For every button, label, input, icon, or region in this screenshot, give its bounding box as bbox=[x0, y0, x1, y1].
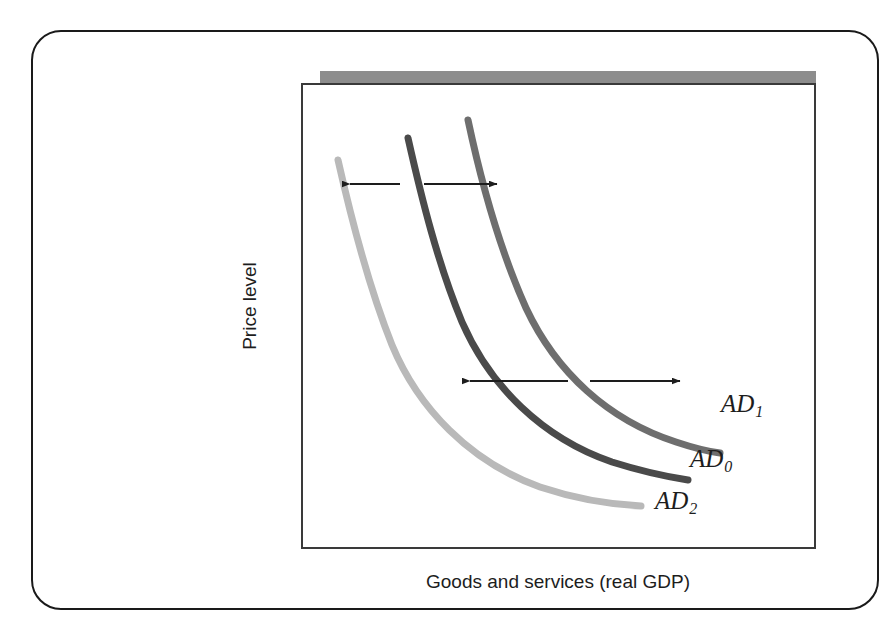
aggregate-demand-chart bbox=[0, 0, 881, 641]
curve-label-ad1: AD1 bbox=[721, 390, 762, 418]
curve-label-ad2-subscript: 2 bbox=[689, 500, 697, 517]
y-axis-title: Price level bbox=[239, 262, 261, 350]
curve-label-ad0-subscript: 0 bbox=[724, 458, 732, 475]
curve-label-ad2-text: AD bbox=[655, 487, 688, 514]
curve-label-ad2: AD2 bbox=[655, 487, 696, 515]
curve-label-ad1-subscript: 1 bbox=[755, 403, 763, 420]
x-axis-title: Goods and services (real GDP) bbox=[426, 571, 690, 593]
curve-label-ad0-text: AD bbox=[690, 445, 723, 472]
figure-root: AD1 AD0 AD2 Price level Goods and servic… bbox=[0, 0, 881, 641]
curve-label-ad0: AD0 bbox=[690, 445, 731, 473]
chart-stage: AD1 AD0 AD2 Price level Goods and servic… bbox=[0, 0, 881, 641]
curve-label-ad1-text: AD bbox=[721, 390, 754, 417]
